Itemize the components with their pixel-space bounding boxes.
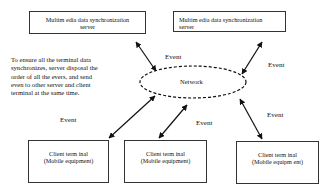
note-line: terminal at the same time. <box>11 89 98 97</box>
note-line: synchronizes, server disposal the <box>11 64 98 72</box>
event-label-5: Event <box>267 111 283 119</box>
server-2-line2: server <box>179 23 285 30</box>
arrow-server2-network <box>242 42 262 74</box>
client-box-1: Client term inal (Mobile equipment) <box>28 140 109 183</box>
client-1-line2: (Mobile equipment) <box>29 157 108 164</box>
note-line: order of all the evers, and send <box>11 73 98 81</box>
server-1-line1: Multim edia data synchronization <box>30 16 145 23</box>
network-label: Network <box>180 78 203 86</box>
arrow-server1-network <box>136 42 156 71</box>
note-line: To ensure all the terminal data <box>11 56 98 64</box>
event-label-4: Event <box>196 119 212 127</box>
event-label-2: Event <box>268 61 284 69</box>
event-label-3: Event <box>60 116 76 124</box>
server-box-1: Multim edia data synchronization server <box>29 11 146 34</box>
event-label-1: Event <box>165 53 181 61</box>
server-1-line2: server <box>30 23 145 30</box>
client-box-2: Client term inal (Mobile equipment) <box>124 140 207 183</box>
client-2-line2: (Mobile equipment) <box>125 157 206 164</box>
client-2-line1: Client term inal <box>125 150 206 157</box>
server-box-2: Multim edia data synchronization server <box>173 11 286 32</box>
server-2-line1: Multim edia data synchronization <box>179 16 285 23</box>
arrow-network-client1 <box>109 96 155 138</box>
arrow-network-client2 <box>159 105 187 138</box>
note-line: even to other server and client <box>11 81 98 89</box>
client-1-line1: Client term inal <box>29 150 108 157</box>
sync-note: To ensure all the terminal data synchron… <box>11 56 98 97</box>
client-3-line2: (Mobile equipm ent) <box>237 158 318 165</box>
arrow-network-client3 <box>240 99 262 139</box>
client-3-line1: Client term inal <box>237 151 318 158</box>
client-box-3: Client term inal (Mobile equipm ent) <box>236 141 319 184</box>
